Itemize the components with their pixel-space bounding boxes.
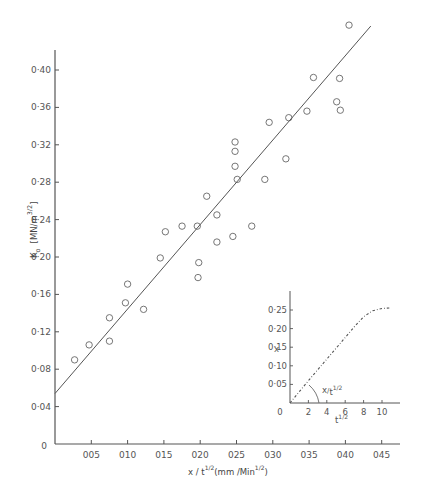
x-tick-label: 005 <box>83 450 100 460</box>
data-point-marker <box>333 99 339 105</box>
y-tick-label: 0·08 <box>31 364 51 374</box>
data-point-marker <box>283 156 289 162</box>
x-tick-label: 035 <box>301 450 318 460</box>
x-tick-label: 025 <box>228 450 245 460</box>
inset-x-axis-label: t1/2 <box>335 413 348 425</box>
inset-y-tick-label: 0·05 <box>268 379 287 389</box>
y-tick-label: 0·16 <box>31 289 51 299</box>
data-point-marker <box>214 239 220 245</box>
data-point-marker <box>336 75 342 81</box>
data-point-marker <box>140 306 146 312</box>
inset-ticks: 0·050·100·150·200·252468100 <box>268 305 387 417</box>
x-tick-label: 030 <box>264 450 281 460</box>
data-point-marker <box>286 114 292 120</box>
inset-annotation: x/t1/2 <box>322 384 343 397</box>
svg-text:Ko[MN/m3/2]: Ko[MN/m3/2] <box>26 201 42 258</box>
data-point-marker <box>266 119 272 125</box>
inset-x-tick-label: 8 <box>361 407 366 417</box>
main-ticks: 0·040·080·120·160·200·240·280·320·360·40… <box>31 65 390 460</box>
main-x-axis-label: x / t1/2(mm /Min1/2) <box>188 464 268 477</box>
data-point-marker <box>122 300 128 306</box>
x-tick-label: 045 <box>373 450 390 460</box>
data-point-marker <box>204 193 210 199</box>
x-tick-label: 010 <box>119 450 136 460</box>
data-point-marker <box>262 176 268 182</box>
main-data-points <box>71 22 352 363</box>
data-point-marker <box>346 22 352 28</box>
data-point-marker <box>304 108 310 114</box>
data-point-marker <box>196 259 202 265</box>
data-point-marker <box>232 163 238 169</box>
inset-y-tick-label: 0·25 <box>268 305 287 315</box>
inset-y-tick-label: 0·10 <box>268 361 287 371</box>
data-point-marker <box>195 274 201 280</box>
inset-x-tick-label: 4 <box>324 407 329 417</box>
data-point-marker <box>124 281 130 287</box>
inset-y-tick-label: 0·20 <box>268 324 287 334</box>
inset-x-tick-label: 10 <box>377 407 388 417</box>
main-y-axis-label: Ko[MN/m3/2] <box>26 201 42 258</box>
inset-axes <box>290 291 400 403</box>
data-point-marker <box>232 148 238 154</box>
data-point-marker <box>162 229 168 235</box>
svg-text:x / t1/2(mm /Min1/2): x / t1/2(mm /Min1/2) <box>188 464 268 477</box>
y-tick-label: 0·40 <box>31 65 51 75</box>
y-tick-label: 0·28 <box>31 177 51 187</box>
y-tick-label: 0·04 <box>31 402 51 412</box>
svg-text:x: x <box>274 344 279 354</box>
x-tick-label: 040 <box>337 450 354 460</box>
chart-figure: 0·040·080·120·160·200·240·280·320·360·40… <box>0 0 421 503</box>
svg-text:x/t1/2: x/t1/2 <box>322 384 343 397</box>
svg-text:t1/2: t1/2 <box>335 413 348 425</box>
inset-origin-label: 0 <box>277 407 282 417</box>
data-point-marker <box>157 255 163 261</box>
y-tick-label: 0·12 <box>31 327 51 337</box>
data-point-marker <box>230 233 236 239</box>
inset-angle-arc <box>309 385 319 403</box>
y-tick-label: 0·32 <box>31 140 51 150</box>
main-fit-line <box>55 26 371 393</box>
data-point-marker <box>214 212 220 218</box>
data-point-marker <box>310 74 316 80</box>
data-point-marker <box>71 357 77 363</box>
data-point-marker <box>86 342 92 348</box>
data-point-marker <box>337 107 343 113</box>
y-tick-label: 0·36 <box>31 102 51 112</box>
data-point-marker <box>106 315 112 321</box>
inset-y-axis-label: x <box>274 344 279 354</box>
inset-x-tick-label: 2 <box>306 407 311 417</box>
data-point-marker <box>106 338 112 344</box>
x-tick-label: 015 <box>155 450 172 460</box>
data-point-marker <box>232 139 238 145</box>
origin-label: 0 <box>41 441 47 451</box>
data-point-marker <box>179 223 185 229</box>
main-axes <box>55 50 400 444</box>
data-point-marker <box>249 223 255 229</box>
x-tick-label: 020 <box>192 450 209 460</box>
